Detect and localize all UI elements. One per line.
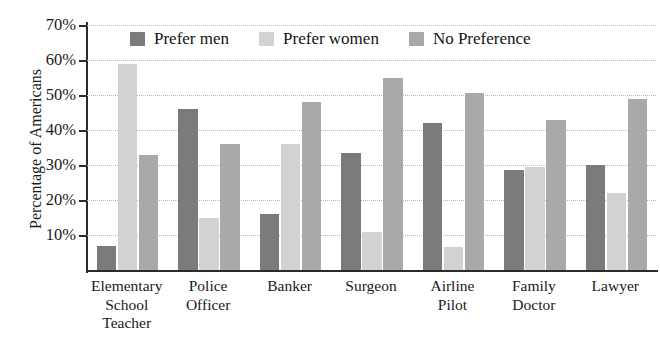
bar: [199, 218, 219, 271]
y-tick-label: 50%: [16, 87, 76, 104]
x-category-label-line: Officer: [159, 296, 256, 315]
bar: [118, 64, 138, 271]
x-axis-category-labels: ElementarySchoolTeacherPoliceOfficerBank…: [86, 277, 658, 349]
bar-chart: Men or Women in Various Jobs Percentage …: [0, 0, 660, 350]
y-tick-label: 20%: [16, 192, 76, 209]
y-tick-mark: [79, 165, 87, 167]
bar: [302, 102, 322, 270]
bar: [383, 78, 403, 271]
bars-layer: [87, 25, 657, 270]
x-category-label-line: Doctor: [485, 296, 582, 315]
legend-swatch-icon: [130, 32, 145, 46]
bar: [546, 120, 566, 271]
plot-area: [86, 25, 656, 270]
legend-label: Prefer men: [154, 30, 229, 47]
x-category-label: Lawyer: [567, 277, 660, 296]
x-category-label-line: Lawyer: [567, 277, 660, 296]
y-tick-mark: [79, 60, 87, 62]
x-category-label-line: Teacher: [78, 314, 175, 333]
bar: [465, 93, 485, 270]
bar: [139, 155, 159, 271]
legend-label: No Preference: [433, 30, 531, 47]
bar: [281, 144, 301, 270]
bar: [444, 247, 464, 270]
y-tick-label: 30%: [16, 157, 76, 174]
chart-legend: Prefer menPrefer womenNo Preference: [130, 30, 531, 47]
bar: [178, 109, 198, 270]
bar: [504, 170, 524, 270]
y-tick-mark: [79, 130, 87, 132]
legend-item: Prefer men: [130, 30, 229, 47]
bar: [220, 144, 240, 270]
y-tick-mark: [79, 200, 87, 202]
bar: [97, 246, 117, 271]
y-tick-label: 40%: [16, 122, 76, 139]
legend-swatch-icon: [409, 32, 424, 46]
bar: [586, 165, 606, 270]
y-tick-mark: [79, 235, 87, 237]
legend-item: No Preference: [409, 30, 531, 47]
y-tick-mark: [79, 25, 87, 27]
y-tick-mark: [79, 95, 87, 97]
legend-swatch-icon: [259, 32, 274, 46]
chart-title: Men or Women in Various Jobs: [0, 0, 660, 4]
x-axis-line: [86, 270, 658, 272]
y-tick-label: 70%: [16, 17, 76, 34]
bar: [423, 123, 443, 270]
legend-label: Prefer women: [283, 30, 379, 47]
bar: [525, 167, 545, 270]
y-tick-label: 60%: [16, 52, 76, 69]
y-tick-label: 10%: [16, 227, 76, 244]
legend-item: Prefer women: [259, 30, 379, 47]
bar: [607, 193, 627, 270]
bar: [260, 214, 280, 270]
bar: [628, 99, 648, 271]
bar: [362, 232, 382, 271]
bar: [341, 153, 361, 270]
